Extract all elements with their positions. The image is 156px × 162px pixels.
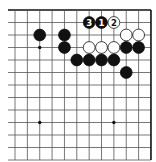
move-number-label: 2 <box>111 18 117 28</box>
white-stone <box>133 29 145 41</box>
go-board: 312 <box>0 0 156 162</box>
black-stone <box>96 54 108 66</box>
black-stone <box>120 42 132 54</box>
black-stone <box>34 29 46 41</box>
white-stone <box>83 42 95 54</box>
black-stone <box>59 42 71 54</box>
white-stone <box>120 29 132 41</box>
black-stone <box>83 54 95 66</box>
black-stone <box>71 54 83 66</box>
black-stone <box>120 67 132 79</box>
star-point-icon <box>38 46 41 49</box>
black-stone <box>133 42 145 54</box>
move-number-label: 3 <box>86 18 92 28</box>
white-stone <box>108 42 120 54</box>
black-stone <box>108 54 120 66</box>
white-stone: 2 <box>108 17 120 29</box>
move-number-label: 1 <box>99 18 105 28</box>
black-stone: 3 <box>83 17 95 29</box>
black-stone <box>59 29 71 41</box>
black-stone: 1 <box>96 17 108 29</box>
white-stone <box>96 42 108 54</box>
star-point-icon <box>112 121 115 124</box>
star-point-icon <box>38 121 41 124</box>
